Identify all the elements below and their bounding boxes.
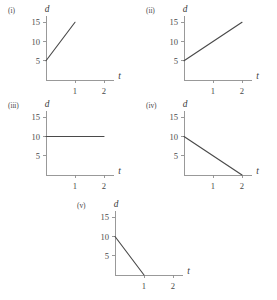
y-tick-label: 10 xyxy=(169,37,178,47)
y-tick-label: 15 xyxy=(31,17,40,27)
plot-svg-iii: 5101512dt xyxy=(4,99,132,194)
y-tick-label: 10 xyxy=(31,37,40,47)
y-tick-label: 10 xyxy=(169,132,178,142)
chart-panel-iii: (iii) 5101512dt xyxy=(4,99,132,194)
x-tick-label: 2 xyxy=(102,86,106,96)
x-axis-title: t xyxy=(256,166,259,176)
y-axis-title: d xyxy=(183,4,188,14)
y-tick-label: 15 xyxy=(31,112,40,122)
plot-svg-v: 5101512dt xyxy=(73,199,201,294)
data-series-line xyxy=(184,22,242,61)
data-series-line xyxy=(46,22,75,61)
x-tick-label: 1 xyxy=(211,86,215,96)
data-series-line xyxy=(115,237,144,276)
plot-svg-ii: 5101512dt xyxy=(142,4,270,99)
x-axis-title: t xyxy=(118,71,121,81)
chart-panel-i: (i) 5101512dt xyxy=(4,4,132,99)
plot-svg-i: 5101512dt xyxy=(4,4,132,99)
y-tick-label: 5 xyxy=(105,251,109,261)
x-tick-label: 2 xyxy=(171,281,175,291)
chart-panel-v: (v) 5101512dt xyxy=(73,199,201,294)
y-tick-label: 10 xyxy=(100,232,109,242)
chart-panel-iv: (iv) 5101512dt xyxy=(142,99,270,194)
y-tick-label: 5 xyxy=(36,151,40,161)
y-tick-label: 5 xyxy=(174,151,178,161)
x-tick-label: 2 xyxy=(240,181,244,191)
y-tick-label: 5 xyxy=(36,56,40,66)
y-tick-label: 15 xyxy=(169,17,178,27)
y-tick-label: 15 xyxy=(169,112,178,122)
x-tick-label: 1 xyxy=(73,86,77,96)
chart-panel-ii: (ii) 5101512dt xyxy=(142,4,270,99)
x-axis-title: t xyxy=(118,166,121,176)
y-axis-title: d xyxy=(45,99,50,109)
x-tick-label: 1 xyxy=(73,181,77,191)
x-axis-title: t xyxy=(256,71,259,81)
x-tick-label: 1 xyxy=(142,281,146,291)
x-tick-label: 1 xyxy=(211,181,215,191)
x-tick-label: 2 xyxy=(102,181,106,191)
x-tick-label: 2 xyxy=(240,86,244,96)
x-axis-title: t xyxy=(187,266,190,276)
y-axis-title: d xyxy=(45,4,50,14)
y-axis-title: d xyxy=(114,199,119,209)
y-tick-label: 10 xyxy=(31,132,40,142)
data-series-line xyxy=(184,137,242,176)
y-tick-label: 15 xyxy=(100,212,109,222)
figure-sheet: (i) 5101512dt (ii) 5101512dt (iii) 51015… xyxy=(0,0,277,300)
plot-svg-iv: 5101512dt xyxy=(142,99,270,194)
y-axis-title: d xyxy=(183,99,188,109)
y-tick-label: 5 xyxy=(174,56,178,66)
